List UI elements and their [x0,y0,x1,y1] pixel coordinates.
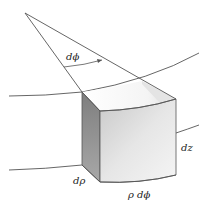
angle-arrowhead [97,59,102,63]
label-dphi: dϕ [66,52,79,62]
inner-arc-top-left [9,92,82,96]
outer-arc-bottom [176,125,199,133]
label-rho-dphi: ρ dϕ [128,190,150,200]
radial-line-right [25,13,176,99]
front-face [100,99,176,182]
cylindrical-volume-element-diagram: dϕ dz dρ ρ dϕ [0,0,216,213]
label-dz: dz [181,143,193,153]
diagram-canvas [0,0,216,213]
inner-arc-bottom [9,165,82,170]
label-drho: dρ [73,176,85,186]
